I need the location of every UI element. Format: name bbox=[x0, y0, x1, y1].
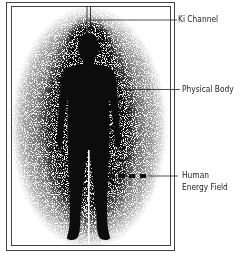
physical-body-label: Physical Body bbox=[182, 84, 234, 94]
ki-channel-label: Ki Channel bbox=[178, 14, 218, 24]
diagram-illustration bbox=[0, 0, 240, 253]
energy-field-diagram: Ki Channel Physical Body Human Energy Fi… bbox=[0, 0, 240, 253]
human-energy-field-label-line2: Energy Field bbox=[182, 182, 228, 192]
human-energy-field-label-line1: Human bbox=[182, 170, 209, 180]
